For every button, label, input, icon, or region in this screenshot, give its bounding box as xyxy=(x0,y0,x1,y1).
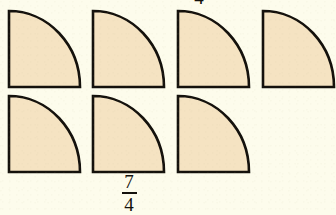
quarter-circle-5 xyxy=(9,96,80,172)
quarter-circle-shapes xyxy=(0,0,336,215)
top-fraction-denominator: 4 xyxy=(182,0,216,7)
quarter-circle-6 xyxy=(93,96,164,172)
bottom-fraction-label: 7 4 xyxy=(112,172,146,214)
quarter-circle-4 xyxy=(263,11,334,87)
figure-canvas: 4 7 4 xyxy=(0,0,336,215)
quarter-circle-3 xyxy=(178,11,249,87)
bottom-fraction-numerator: 7 xyxy=(112,172,146,191)
quarter-circle-7 xyxy=(178,96,249,172)
quarter-circle-1 xyxy=(9,11,80,87)
quarter-circle-2 xyxy=(93,11,164,87)
bottom-fraction-denominator: 4 xyxy=(112,195,146,214)
top-fraction-label: 4 xyxy=(182,0,216,7)
